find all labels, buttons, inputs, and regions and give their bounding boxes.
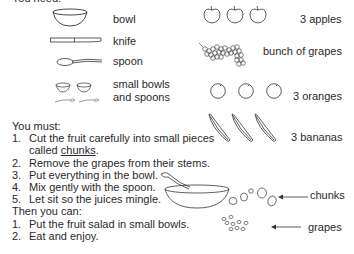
term-chunks: chunks: [61, 144, 96, 156]
step-text: called: [29, 144, 61, 156]
step-number: 3.: [12, 169, 29, 181]
step-text: Put everything in the bowl.: [29, 169, 158, 181]
small-bowls-and-spoons-icon: [55, 82, 105, 108]
equipment-label-small-bowls-line1: small bowls: [113, 78, 170, 91]
step-number: 2.: [12, 157, 29, 169]
equipment-label-spoon: spoon: [113, 55, 143, 68]
step-text: Let sit so the juices mingle.: [29, 193, 161, 205]
step-text: Cut the fruit carefully into small piece…: [29, 132, 214, 144]
chunks-icon: [227, 185, 279, 209]
then-step-1: 1.Put the fruit salad in small bowls.: [12, 218, 214, 230]
must-step-2: 2.Remove the grapes from their stems.: [12, 157, 214, 169]
step-number: 4.: [12, 181, 29, 193]
step-number: 1.: [12, 132, 29, 144]
ingredient-label-apples: 3 apples: [300, 13, 342, 26]
step-text: Eat and enjoy.: [29, 230, 99, 242]
step-text: .: [96, 144, 99, 156]
bananas-icon: [208, 113, 288, 147]
step-text: Put the fruit salad in small bowls.: [29, 218, 189, 230]
must-heading: You must:: [12, 120, 214, 132]
ingredient-label-oranges: 3 oranges: [293, 90, 342, 103]
chunks-arrow-icon: [278, 194, 308, 200]
step-number: 5.: [12, 193, 29, 205]
must-step-1-continued: called chunks.: [12, 144, 214, 156]
apples-icon: [203, 5, 283, 27]
spoon-icon: [57, 57, 103, 67]
ingredient-label-bananas: 3 bananas: [291, 131, 342, 144]
equipment-label-small-bowls-line2: and spoons: [113, 91, 170, 104]
oranges-icon: [210, 83, 290, 101]
then-step-2: 2.Eat and enjoy.: [12, 230, 214, 242]
knife-icon: [50, 37, 102, 45]
step-number: 2.: [12, 230, 29, 242]
step-number: 1.: [12, 218, 29, 230]
equipment-label-knife: knife: [113, 35, 136, 48]
step-text: Remove the grapes from their stems.: [29, 157, 210, 169]
ingredient-label-grapes: bunch of grapes: [263, 45, 342, 58]
grapes-icon: [197, 41, 253, 71]
loose-grapes-icon: [221, 215, 255, 233]
page-title: You need:: [12, 0, 61, 5]
callout-chunks: chunks: [310, 189, 345, 202]
grapes-arrow-icon: [271, 224, 301, 230]
equipment-label-bowl: bowl: [113, 13, 136, 26]
bowl-icon: [50, 9, 90, 29]
step-text: Mix gently with the spoon.: [29, 181, 156, 193]
callout-grapes: grapes: [308, 221, 342, 234]
mixing-bowl-icon: [160, 172, 230, 212]
must-step-1: 1.Cut the fruit carefully into small pie…: [12, 132, 214, 144]
